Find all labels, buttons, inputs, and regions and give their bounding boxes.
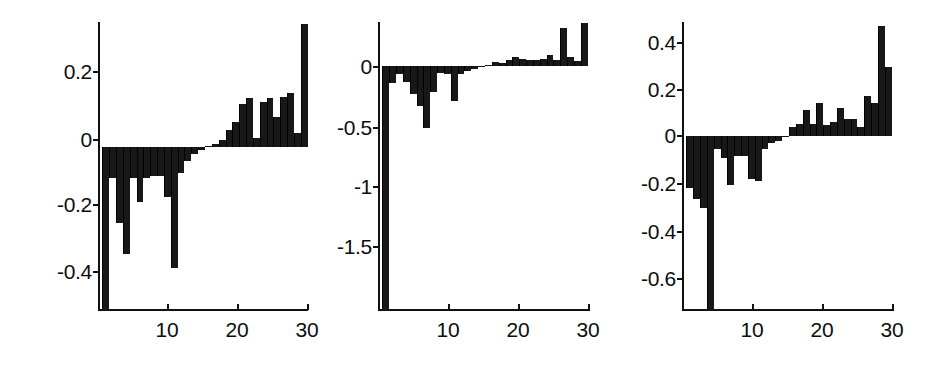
bar <box>553 60 560 66</box>
bar <box>871 103 878 136</box>
bar <box>810 124 817 136</box>
y-tick-label: 0.2 <box>614 78 676 102</box>
bar <box>830 122 837 135</box>
bar <box>560 28 567 66</box>
y-tick-label: -0.4 <box>22 260 92 284</box>
bar <box>273 117 280 146</box>
bar <box>239 104 246 147</box>
bar <box>693 136 700 199</box>
bar <box>512 57 519 66</box>
bar <box>403 66 410 82</box>
x-tick-label: 30 <box>558 318 618 342</box>
bar <box>492 62 499 66</box>
bar <box>567 57 574 66</box>
bar <box>885 67 892 136</box>
bar <box>437 66 444 73</box>
bar <box>267 98 274 147</box>
bar <box>526 60 533 66</box>
chart-panel-3: 0.4 0.2 0 -0.2 -0.4 -0.6 10 20 30 <box>614 0 934 367</box>
bar <box>782 136 789 137</box>
chart-panel-2: 0 -0.5 -1 -1.5 10 20 30 <box>310 0 622 367</box>
bar <box>844 119 851 136</box>
y-tick-label: 0.2 <box>22 60 92 84</box>
bar <box>471 66 478 69</box>
bar <box>123 147 130 255</box>
bar <box>485 65 492 66</box>
bar <box>707 136 714 310</box>
bar <box>768 136 775 143</box>
bar <box>458 66 465 75</box>
y-tick-label: 0.4 <box>614 31 676 55</box>
bar-series-1 <box>99 22 311 310</box>
bar <box>506 60 513 66</box>
bar <box>444 66 451 74</box>
bar <box>762 136 769 149</box>
bar <box>727 136 734 186</box>
y-tick-label: 0 <box>310 55 372 79</box>
bar <box>116 147 123 223</box>
x-tick-label: 20 <box>488 318 548 342</box>
y-tick-label: -1 <box>310 175 372 199</box>
bar <box>287 93 294 147</box>
bar <box>700 136 707 209</box>
x-tick-label: 20 <box>207 318 267 342</box>
bar <box>816 103 823 136</box>
bar <box>232 122 239 147</box>
bar <box>464 66 471 71</box>
bar <box>260 102 267 147</box>
bar <box>714 136 721 149</box>
bar <box>748 136 755 180</box>
bar <box>191 147 198 154</box>
bar <box>878 26 885 136</box>
bar <box>102 147 109 310</box>
bar <box>686 136 693 188</box>
bar <box>533 60 540 66</box>
bar <box>382 66 389 310</box>
bar <box>280 97 287 147</box>
bar <box>857 127 864 135</box>
bar <box>130 147 137 178</box>
bar <box>789 127 796 135</box>
bar <box>851 119 858 136</box>
bar <box>755 136 762 181</box>
bar <box>212 144 219 147</box>
bar <box>574 61 581 66</box>
y-tick-label: -0.5 <box>310 116 372 140</box>
chart-panel-1: 0.2 0 -0.2 -0.4 10 20 30 <box>0 0 320 367</box>
y-tick-label: -0.2 <box>614 172 676 196</box>
bar <box>721 136 728 158</box>
bar <box>837 108 844 136</box>
bar-series-2 <box>379 22 591 310</box>
bar <box>734 136 741 157</box>
y-tick-label: -0.6 <box>614 267 676 291</box>
y-tick-label: -0.4 <box>614 220 676 244</box>
bar <box>198 147 205 150</box>
bar <box>775 136 782 141</box>
x-tick-label: 10 <box>418 318 478 342</box>
bar <box>253 138 260 147</box>
y-tick-label: 0 <box>614 124 676 148</box>
y-tick-label: 0 <box>22 128 92 152</box>
x-tick-label: 30 <box>862 318 922 342</box>
bar <box>184 147 191 161</box>
bar <box>157 147 164 176</box>
bar <box>219 140 226 147</box>
bar <box>301 24 308 147</box>
bar <box>164 147 171 197</box>
bar <box>430 66 437 92</box>
bar <box>741 136 748 157</box>
bar <box>823 125 830 136</box>
bar <box>137 147 144 203</box>
bar <box>143 147 150 178</box>
bar-series-3 <box>683 22 895 310</box>
x-tick-label: 10 <box>722 318 782 342</box>
bar <box>205 146 212 147</box>
bar <box>478 66 485 67</box>
bar <box>109 147 116 178</box>
bar <box>864 96 871 136</box>
bar <box>246 98 253 147</box>
bar <box>417 66 424 106</box>
bar <box>396 66 403 74</box>
figure-three-bar-charts: 0.2 0 -0.2 -0.4 10 20 30 0 -0.5 -1 -1.5 <box>0 0 934 367</box>
bar <box>803 110 810 135</box>
